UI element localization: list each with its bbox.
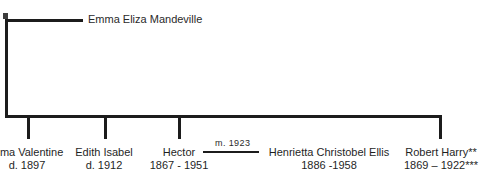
person-name: Edith Isabel <box>59 146 149 159</box>
person-robert-harry: Robert Harry** 1869 – 1922*** <box>396 146 486 172</box>
marriage-connector-line <box>203 151 259 153</box>
drop-line-emma-valentine <box>27 115 30 139</box>
spouse-connector-line <box>5 19 83 22</box>
person-name: Hector <box>148 146 210 159</box>
person-name: Robert Harry** <box>396 146 486 159</box>
person-edith-isabel: Edith Isabel d. 1912 <box>59 146 149 172</box>
drop-line-edith-isabel <box>104 115 107 139</box>
sibling-bar-line <box>5 115 442 118</box>
person-name: Henrietta Christobel Ellis <box>259 146 399 159</box>
person-henrietta-christobel-ellis: Henrietta Christobel Ellis 1886 -1958 <box>259 146 399 172</box>
person-dates: 1869 – 1922*** <box>396 159 486 172</box>
person-hector: Hector 1867 - 1951 <box>148 146 210 172</box>
family-tree-chart: Emma Eliza Mandeville m. 1923 mma Valent… <box>0 0 495 176</box>
person-dates: 1886 -1958 <box>259 159 399 172</box>
marriage-year-label: m. 1923 <box>215 138 250 148</box>
person-dates: 1867 - 1951 <box>148 159 210 172</box>
drop-line-hector <box>178 115 181 139</box>
descent-trunk-line <box>5 19 8 118</box>
person-dates: d. 1912 <box>59 159 149 172</box>
person-emma-eliza-mandeville: Emma Eliza Mandeville <box>88 13 202 25</box>
drop-line-robert-harry <box>439 115 442 139</box>
